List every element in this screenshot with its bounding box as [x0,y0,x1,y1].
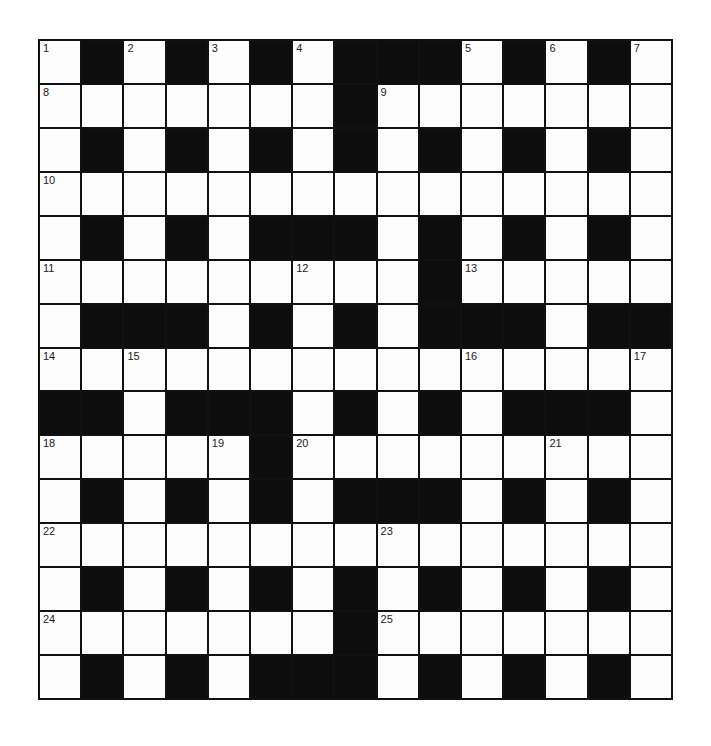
crossword-cell[interactable] [631,524,671,566]
crossword-cell[interactable] [462,173,502,215]
crossword-cell[interactable] [335,436,375,478]
crossword-cell[interactable] [293,129,333,171]
crossword-cell[interactable] [504,349,544,391]
crossword-cell[interactable] [124,656,164,698]
crossword-cell[interactable]: 1 [40,41,80,83]
crossword-cell[interactable] [209,349,249,391]
crossword-cell[interactable]: 4 [293,41,333,83]
crossword-cell[interactable] [631,612,671,654]
crossword-cell[interactable] [209,480,249,522]
crossword-cell[interactable] [378,436,418,478]
crossword-cell[interactable] [420,612,460,654]
crossword-cell[interactable]: 12 [293,261,333,303]
crossword-cell[interactable] [82,261,122,303]
crossword-cell[interactable] [209,173,249,215]
crossword-cell[interactable] [40,480,80,522]
crossword-cell[interactable] [251,85,291,127]
crossword-cell[interactable] [82,173,122,215]
crossword-cell[interactable] [631,173,671,215]
crossword-cell[interactable] [293,612,333,654]
crossword-cell[interactable] [546,85,586,127]
crossword-cell[interactable] [631,129,671,171]
crossword-cell[interactable] [589,612,629,654]
crossword-cell[interactable] [504,436,544,478]
crossword-cell[interactable]: 17 [631,349,671,391]
crossword-cell[interactable] [420,436,460,478]
crossword-cell[interactable] [546,217,586,259]
crossword-cell[interactable]: 3 [209,41,249,83]
crossword-cell[interactable] [546,612,586,654]
crossword-cell[interactable]: 13 [462,261,502,303]
crossword-cell[interactable] [251,612,291,654]
crossword-cell[interactable] [589,436,629,478]
crossword-cell[interactable] [631,436,671,478]
crossword-cell[interactable]: 20 [293,436,333,478]
crossword-cell[interactable] [462,656,502,698]
crossword-cell[interactable] [631,656,671,698]
crossword-cell[interactable] [124,217,164,259]
crossword-cell[interactable] [546,305,586,347]
crossword-cell[interactable] [546,173,586,215]
crossword-cell[interactable] [631,85,671,127]
crossword-cell[interactable] [209,85,249,127]
crossword-cell[interactable] [378,173,418,215]
crossword-cell[interactable] [546,568,586,610]
crossword-cell[interactable] [378,568,418,610]
crossword-cell[interactable] [82,85,122,127]
crossword-cell[interactable] [335,524,375,566]
crossword-cell[interactable] [504,261,544,303]
crossword-cell[interactable]: 18 [40,436,80,478]
crossword-cell[interactable] [462,524,502,566]
crossword-cell[interactable] [124,524,164,566]
crossword-cell[interactable] [462,85,502,127]
crossword-cell[interactable] [251,261,291,303]
crossword-cell[interactable] [631,568,671,610]
crossword-cell[interactable] [167,261,207,303]
crossword-cell[interactable]: 7 [631,41,671,83]
crossword-cell[interactable]: 2 [124,41,164,83]
crossword-cell[interactable]: 10 [40,173,80,215]
crossword-cell[interactable] [209,568,249,610]
crossword-cell[interactable] [335,261,375,303]
crossword-cell[interactable] [82,349,122,391]
crossword-cell[interactable] [251,173,291,215]
crossword-cell[interactable]: 19 [209,436,249,478]
crossword-cell[interactable] [631,392,671,434]
crossword-cell[interactable] [209,217,249,259]
crossword-cell[interactable] [124,261,164,303]
crossword-cell[interactable] [462,217,502,259]
crossword-cell[interactable]: 11 [40,261,80,303]
crossword-cell[interactable] [420,524,460,566]
crossword-cell[interactable] [293,392,333,434]
crossword-cell[interactable] [167,173,207,215]
crossword-cell[interactable] [504,524,544,566]
crossword-cell[interactable] [124,173,164,215]
crossword-cell[interactable]: 14 [40,349,80,391]
crossword-cell[interactable] [124,129,164,171]
crossword-cell[interactable] [335,349,375,391]
crossword-cell[interactable] [40,305,80,347]
crossword-cell[interactable] [209,129,249,171]
crossword-cell[interactable] [378,305,418,347]
crossword-cell[interactable] [40,217,80,259]
crossword-cell[interactable] [504,173,544,215]
crossword-cell[interactable] [209,261,249,303]
crossword-cell[interactable]: 24 [40,612,80,654]
crossword-cell[interactable] [462,568,502,610]
crossword-cell[interactable] [82,436,122,478]
crossword-cell[interactable] [462,392,502,434]
crossword-cell[interactable] [293,85,333,127]
crossword-cell[interactable] [420,85,460,127]
crossword-cell[interactable]: 9 [378,85,418,127]
crossword-cell[interactable] [167,349,207,391]
crossword-cell[interactable] [209,524,249,566]
crossword-cell[interactable] [293,524,333,566]
crossword-cell[interactable]: 6 [546,41,586,83]
crossword-cell[interactable] [40,656,80,698]
crossword-cell[interactable] [40,129,80,171]
crossword-cell[interactable]: 21 [546,436,586,478]
crossword-cell[interactable] [167,85,207,127]
crossword-cell[interactable] [589,261,629,303]
crossword-cell[interactable]: 25 [378,612,418,654]
crossword-cell[interactable]: 16 [462,349,502,391]
